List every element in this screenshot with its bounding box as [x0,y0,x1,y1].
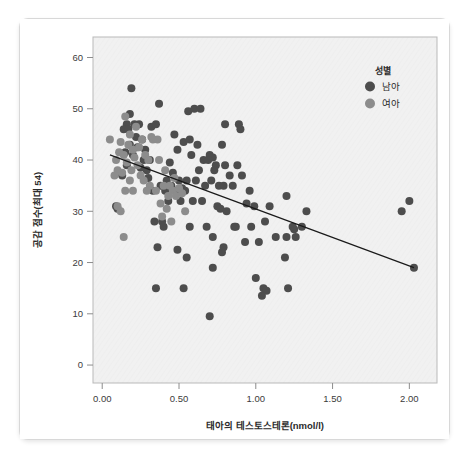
data-point[interactable] [266,202,274,210]
data-point[interactable] [261,218,269,226]
data-point[interactable] [173,146,181,154]
data-point[interactable] [173,246,181,254]
data-point[interactable] [241,238,249,246]
data-point[interactable] [255,238,263,246]
data-point[interactable] [111,171,119,179]
data-point[interactable] [405,197,413,205]
data-point[interactable] [218,141,226,149]
data-point[interactable] [130,153,138,161]
data-point[interactable] [220,182,228,190]
data-point[interactable] [155,156,163,164]
data-point[interactable] [193,141,201,149]
data-point[interactable] [118,169,126,177]
data-point[interactable] [284,284,292,292]
data-point[interactable] [247,223,255,231]
data-point[interactable] [187,151,195,159]
data-point[interactable] [144,156,152,164]
data-point[interactable] [203,223,211,231]
data-point[interactable] [152,284,160,292]
data-point[interactable] [232,223,240,231]
data-point[interactable] [117,138,125,146]
data-point[interactable] [157,200,165,208]
data-point[interactable] [150,218,158,226]
data-point[interactable] [398,207,406,215]
data-point[interactable] [163,205,171,213]
data-point[interactable] [126,177,134,185]
legend-swatch-1[interactable] [365,82,375,92]
data-point[interactable] [189,197,197,205]
data-point[interactable] [152,120,160,128]
data-point[interactable] [170,130,178,138]
data-point[interactable] [152,187,160,195]
data-point[interactable] [283,233,291,241]
data-point[interactable] [138,136,146,144]
data-point[interactable] [236,125,244,133]
data-point[interactable] [283,192,291,200]
y-tick-label: 60 [72,52,83,63]
data-point[interactable] [181,207,189,215]
scatter-plot-svg[interactable]: 0102030405060 0.000.501.001.502.00 공감 점수… [20,19,449,439]
data-point[interactable] [121,187,129,195]
data-point[interactable] [229,182,237,190]
data-point[interactable] [198,197,206,205]
data-point[interactable] [195,166,203,174]
data-point[interactable] [252,274,260,282]
data-point[interactable] [120,233,128,241]
data-point[interactable] [126,130,134,138]
data-point[interactable] [221,120,229,128]
data-point[interactable] [129,146,137,154]
data-point[interactable] [209,233,217,241]
data-point[interactable] [302,207,310,215]
data-point[interactable] [158,212,166,220]
legend-label-2[interactable]: 여아 [382,98,400,109]
data-point[interactable] [207,177,215,185]
data-point[interactable] [172,192,180,200]
data-point[interactable] [132,123,140,131]
data-point[interactable] [197,105,205,113]
x-tick-label: 0.50 [170,393,189,404]
data-point[interactable] [180,284,188,292]
data-point[interactable] [154,243,162,251]
data-point[interactable] [147,133,155,141]
data-point[interactable] [127,166,135,174]
data-point[interactable] [201,182,209,190]
data-point[interactable] [246,187,254,195]
data-point[interactable] [183,253,191,261]
data-point[interactable] [186,136,194,144]
data-point[interactable] [290,225,298,233]
data-point[interactable] [186,223,194,231]
legend-label-1[interactable]: 남아 [382,81,400,92]
data-point[interactable] [164,192,172,200]
x-tick-label: 1.00 [247,393,265,404]
data-point[interactable] [272,233,280,241]
data-point[interactable] [117,207,125,215]
data-point[interactable] [167,218,175,226]
data-point[interactable] [258,292,266,300]
data-point[interactable] [221,161,229,169]
data-point[interactable] [140,177,148,185]
data-point[interactable] [127,84,135,92]
data-point[interactable] [281,253,289,261]
data-point[interactable] [220,243,228,251]
data-point[interactable] [226,171,234,179]
data-point[interactable] [166,159,174,167]
data-point[interactable] [120,151,128,159]
data-point[interactable] [206,312,214,320]
data-point[interactable] [292,233,300,241]
data-point[interactable] [204,156,212,164]
data-point[interactable] [192,177,200,185]
data-point[interactable] [210,166,218,174]
y-axis-title: 공감 점수(최대 54) [32,172,43,248]
data-point[interactable] [155,100,163,108]
data-point[interactable] [161,166,169,174]
legend-swatch-2[interactable] [365,99,375,109]
data-point[interactable] [160,223,168,231]
data-point[interactable] [121,112,129,120]
data-point[interactable] [209,264,217,272]
data-point[interactable] [143,187,151,195]
data-point[interactable] [129,187,137,195]
data-point[interactable] [106,136,114,144]
data-point[interactable] [233,161,241,169]
data-point[interactable] [238,171,246,179]
data-point[interactable] [223,207,231,215]
